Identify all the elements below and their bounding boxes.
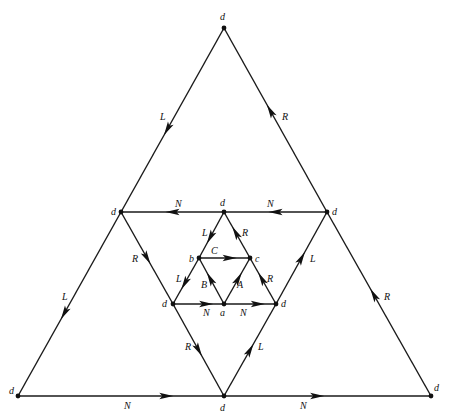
nested-triangle-diagram: LRLRNNNNRLRLLRCLBARNNdddddddbcdad — [0, 0, 452, 419]
node-label: d — [220, 197, 226, 208]
edge-label: R — [281, 111, 288, 122]
node-d_mid_ul — [119, 210, 124, 215]
edge-label: R — [184, 341, 191, 352]
node-d_outer_bm — [222, 394, 227, 399]
arrowhead-icon — [370, 289, 380, 303]
node-b — [197, 256, 202, 261]
node-label: d — [111, 206, 117, 217]
edge-label: B — [201, 279, 207, 290]
node-d_outer_br — [429, 394, 434, 399]
node-label: b — [189, 253, 194, 264]
arrowhead-icon — [295, 252, 305, 266]
edge-label: N — [174, 198, 183, 209]
node-label: a — [220, 307, 225, 318]
edge-l-d_top-to-d_mid_ul — [121, 28, 224, 212]
arrowhead-icon — [192, 342, 202, 356]
edge-label: L — [309, 253, 316, 264]
edge-l-d_mid_ul-to-d_outer_bl — [18, 212, 121, 396]
node-label: d — [281, 298, 287, 309]
edge-label: A — [236, 279, 244, 290]
node-label: d — [9, 385, 15, 396]
node-label: d — [434, 382, 440, 393]
node-label: d — [162, 298, 168, 309]
node-label: d — [220, 11, 226, 22]
node-label: d — [220, 402, 226, 413]
arrowhead-icon — [164, 122, 174, 136]
node-d_top — [222, 26, 227, 31]
node-d_outer_bl — [16, 394, 21, 399]
edge-label: R — [266, 273, 273, 284]
arrowhead-icon — [267, 105, 277, 119]
node-d_inner_br — [274, 302, 279, 307]
edge-label: R — [131, 253, 138, 264]
arrowhead-icon — [232, 227, 242, 241]
edge-label: L — [61, 291, 68, 302]
node-c — [248, 256, 253, 261]
edge-label: L — [159, 111, 166, 122]
edge-label: N — [202, 307, 211, 318]
node-d_inner_top — [222, 210, 227, 215]
edge-label: L — [257, 341, 264, 352]
edge-label: N — [266, 198, 275, 209]
arrowhead-icon — [207, 273, 216, 287]
node-d_mid_ur — [325, 210, 330, 215]
edge-label: N — [239, 307, 248, 318]
arrowhead-icon — [141, 250, 151, 264]
node-d_inner_bl — [171, 302, 176, 307]
node-a — [222, 302, 227, 307]
arrowhead-icon — [61, 306, 71, 320]
nodes-layer — [16, 26, 434, 399]
edge-label: R — [383, 291, 390, 302]
arrowhead-icon — [244, 344, 254, 358]
node-label: c — [255, 253, 260, 264]
edge-label: N — [299, 400, 308, 411]
edge-label: N — [123, 400, 132, 411]
arrows-layer — [61, 105, 380, 400]
arrowhead-icon — [181, 276, 191, 290]
edge-r-d_mid_ur-to-d_top — [224, 28, 327, 212]
edge-label: L — [175, 273, 182, 284]
edge-label: C — [211, 245, 218, 256]
edge-label: L — [201, 227, 208, 238]
node-label: d — [332, 206, 338, 217]
arrowhead-icon — [207, 230, 216, 244]
edge-r-d_outer_br-to-d_mid_ur — [327, 212, 431, 396]
edge-label: R — [241, 227, 248, 238]
